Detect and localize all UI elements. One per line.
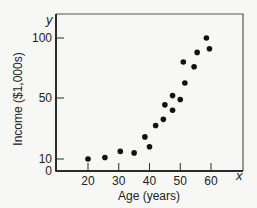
data-point xyxy=(170,93,176,99)
data-point xyxy=(177,97,183,103)
axis-ticks: 203040506001050100 xyxy=(32,31,218,188)
y-tick-label: 10 xyxy=(39,152,53,166)
data-point xyxy=(194,50,200,56)
y-tick-label: 50 xyxy=(39,91,53,105)
data-point xyxy=(147,144,153,150)
data-point xyxy=(102,155,108,161)
x-tick-label: 50 xyxy=(174,174,188,188)
data-points xyxy=(85,35,212,162)
x-tick-label: 20 xyxy=(81,174,95,188)
scatter-chart: 203040506001050100 y x Age (years) Incom… xyxy=(0,0,257,208)
x-tick-label: 30 xyxy=(112,174,126,188)
data-point xyxy=(182,80,188,86)
y-tick-label: 0 xyxy=(45,164,52,178)
x-tick-label: 40 xyxy=(143,174,157,188)
x-axis-title: Age (years) xyxy=(118,189,180,203)
data-point xyxy=(162,102,168,108)
data-point xyxy=(181,59,187,65)
data-point xyxy=(191,64,197,70)
data-point xyxy=(170,107,176,113)
data-point xyxy=(142,134,148,140)
data-point xyxy=(85,156,91,162)
x-axis-variable: x xyxy=(235,168,243,183)
data-point xyxy=(161,117,167,123)
x-tick-label: 60 xyxy=(204,174,218,188)
y-tick-label: 100 xyxy=(32,31,52,45)
y-axis-title: Income ($1,000s) xyxy=(11,52,25,145)
y-axis-variable: y xyxy=(45,12,54,27)
data-point xyxy=(207,46,213,52)
data-point xyxy=(131,150,137,156)
data-point xyxy=(204,35,210,41)
data-point xyxy=(117,149,123,155)
data-point xyxy=(153,123,159,129)
